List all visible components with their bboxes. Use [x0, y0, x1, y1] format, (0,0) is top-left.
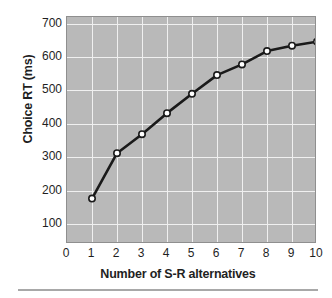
x-tick-label: 1 [78, 247, 104, 259]
x-tick-label: 0 [53, 247, 79, 259]
x-tick-label: 8 [253, 247, 279, 259]
x-tick-label: 9 [278, 247, 304, 259]
x-tick-label: 10 [303, 247, 329, 259]
x-tick-label: 4 [153, 247, 179, 259]
chart-figure: Choice RT (ms) 100200300400500600700 012… [0, 0, 332, 298]
x-axis-title: Number of S-R alternatives [40, 267, 316, 281]
x-tick-label: 7 [228, 247, 254, 259]
bottom-divider [18, 289, 318, 291]
x-tick-label: 6 [203, 247, 229, 259]
x-tick-label: 2 [103, 247, 129, 259]
x-tick-label: 5 [178, 247, 204, 259]
x-tick-label: 3 [128, 247, 154, 259]
x-axis-tick-labels: 012345678910 [0, 0, 332, 298]
